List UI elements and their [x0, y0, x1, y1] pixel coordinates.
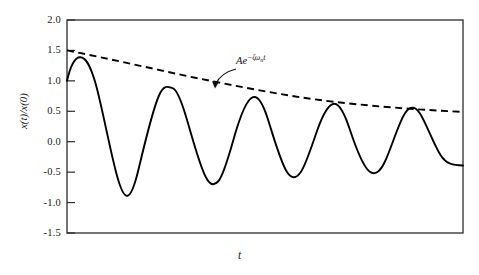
figure-damped-oscillation: 2.0 1.5 1.0 0.5 0.0 -0.5 -1.0 -1.5 x(t)/…: [0, 0, 479, 275]
y-tick-label-1-5: 1.5: [30, 44, 61, 55]
y-tick-label-neg-0-5: -0.5: [26, 166, 61, 177]
y-tick-label-0-5: 0.5: [30, 105, 61, 116]
y-tick-label-2-0: 2.0: [30, 14, 61, 25]
y-tick-label-neg-1-0: -1.0: [26, 197, 61, 208]
annotation-t: t: [263, 53, 265, 62]
x-axis-label-text: t: [238, 249, 241, 261]
x-axis-label: t: [0, 249, 479, 261]
y-tick-label-1-0: 1.0: [30, 75, 61, 86]
y-tick-label-0-0: 0.0: [30, 136, 61, 147]
y-tick-label-neg-1-5: -1.5: [26, 227, 61, 238]
annotation-coefficient: Ae: [236, 55, 247, 66]
y-axis-label: x(t)/x(0): [17, 66, 29, 156]
envelope-annotation: Ae−ζωnt: [236, 55, 265, 66]
chart-canvas: [0, 0, 479, 275]
y-axis-label-text: x(t)/x(0): [17, 93, 29, 129]
